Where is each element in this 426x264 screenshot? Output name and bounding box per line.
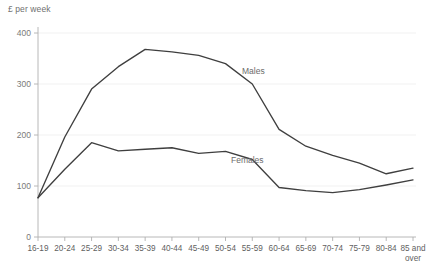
x-tick-label: 20-24 [54, 244, 75, 253]
x-tick-label: 50-54 [215, 244, 236, 253]
line-chart: £ per week 0100200300400 16-1920-2425-29… [0, 0, 426, 264]
x-tick-label: 35-39 [135, 244, 156, 253]
x-tick-label: 70-74 [322, 244, 343, 253]
chart-plot-area: 0100200300400 16-1920-2425-2930-3435-394… [0, 0, 426, 264]
y-axis-ticks: 0100200300400 [17, 28, 38, 242]
series-label-males: Males [242, 66, 265, 76]
x-tick-label: 25-29 [81, 244, 102, 253]
y-tick-label: 100 [17, 181, 31, 191]
x-tick-label: 40-44 [161, 244, 182, 253]
x-tick-label: over [405, 254, 421, 263]
x-tick-label: 75-79 [349, 244, 370, 253]
x-tick-label: 65-69 [295, 244, 316, 253]
series-line-males [38, 49, 413, 197]
y-tick-label: 400 [17, 28, 31, 38]
y-tick-label: 200 [17, 130, 31, 140]
series-lines [38, 49, 413, 197]
x-tick-label: 16-19 [28, 244, 49, 253]
x-tick-label: 85 and [400, 244, 425, 253]
x-tick-label: 80-84 [376, 244, 397, 253]
x-tick-label: 55-59 [242, 244, 263, 253]
series-line-females [38, 143, 413, 198]
x-axis-ticks: 16-1920-2425-2930-3435-3940-4445-4950-54… [28, 237, 426, 263]
y-tick-label: 0 [26, 232, 31, 242]
x-tick-label: 45-49 [188, 244, 209, 253]
x-tick-label: 60-64 [269, 244, 290, 253]
x-tick-label: 30-34 [108, 244, 129, 253]
y-tick-label: 300 [17, 79, 31, 89]
series-label-females: Females [231, 155, 264, 165]
